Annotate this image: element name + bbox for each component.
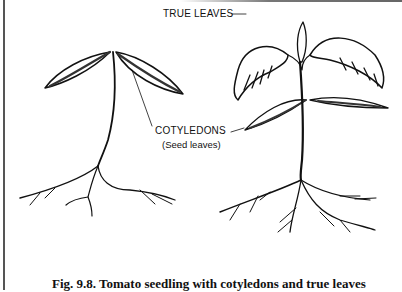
figure-caption: Fig. 9.8. Tomato seedling with cotyledon… <box>52 276 366 292</box>
older-seedling <box>220 22 388 232</box>
label-true-leaves: TRUE LEAVES <box>163 8 233 19</box>
label-seed-leaves: (Seed leaves) <box>162 139 221 150</box>
label-cotyledons: COTYLEDONS <box>155 125 226 136</box>
